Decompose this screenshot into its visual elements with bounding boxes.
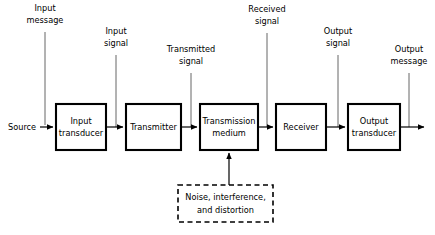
leader-labels: Input message Input signal Transmitted s… [27,3,428,66]
label-input-message-line1: Input [34,3,56,13]
block-transmission-medium-line2: medium [212,128,246,138]
block-transmission-medium-line1: Transmission [202,116,256,126]
block-noise[interactable]: Noise, interference, and distortion [178,185,273,222]
label-output-message-line2: message [391,56,428,66]
label-input-signal-line1: Input [105,26,127,36]
label-output-signal-line2: signal [326,38,350,48]
block-output-transducer[interactable]: Output transducer [348,104,400,150]
block-output-transducer-line2: transducer [352,128,397,138]
source-label: Source [8,122,36,132]
block-input-transducer[interactable]: Input transducer [56,104,106,150]
block-input-transducer-line2: transducer [59,128,104,138]
diagram-svg: Input message Input signal Transmitted s… [0,0,435,235]
label-received-signal-line2: signal [255,16,279,26]
label-transmitted-signal-line2: signal [179,56,203,66]
block-output-transducer-line1: Output [360,116,389,126]
block-noise-line2: and distortion [197,205,254,215]
block-transmission-medium[interactable]: Transmission medium [200,104,258,150]
block-transmitter-line1: Transmitter [129,122,177,132]
label-output-message-line1: Output [395,44,424,54]
label-received-signal-line1: Received [248,4,285,14]
label-transmitted-signal-line1: Transmitted [166,44,216,54]
block-noise-line1: Noise, interference, [185,192,265,202]
label-output-signal-line1: Output [324,26,353,36]
label-input-message-line2: message [27,15,64,25]
block-transmitter[interactable]: Transmitter [126,104,181,150]
label-input-signal-line2: signal [104,38,128,48]
block-receiver[interactable]: Receiver [276,104,326,150]
block-diagram-canvas: Input message Input signal Transmitted s… [0,0,435,235]
block-input-transducer-line1: Input [70,116,92,126]
block-receiver-line1: Receiver [283,122,319,132]
